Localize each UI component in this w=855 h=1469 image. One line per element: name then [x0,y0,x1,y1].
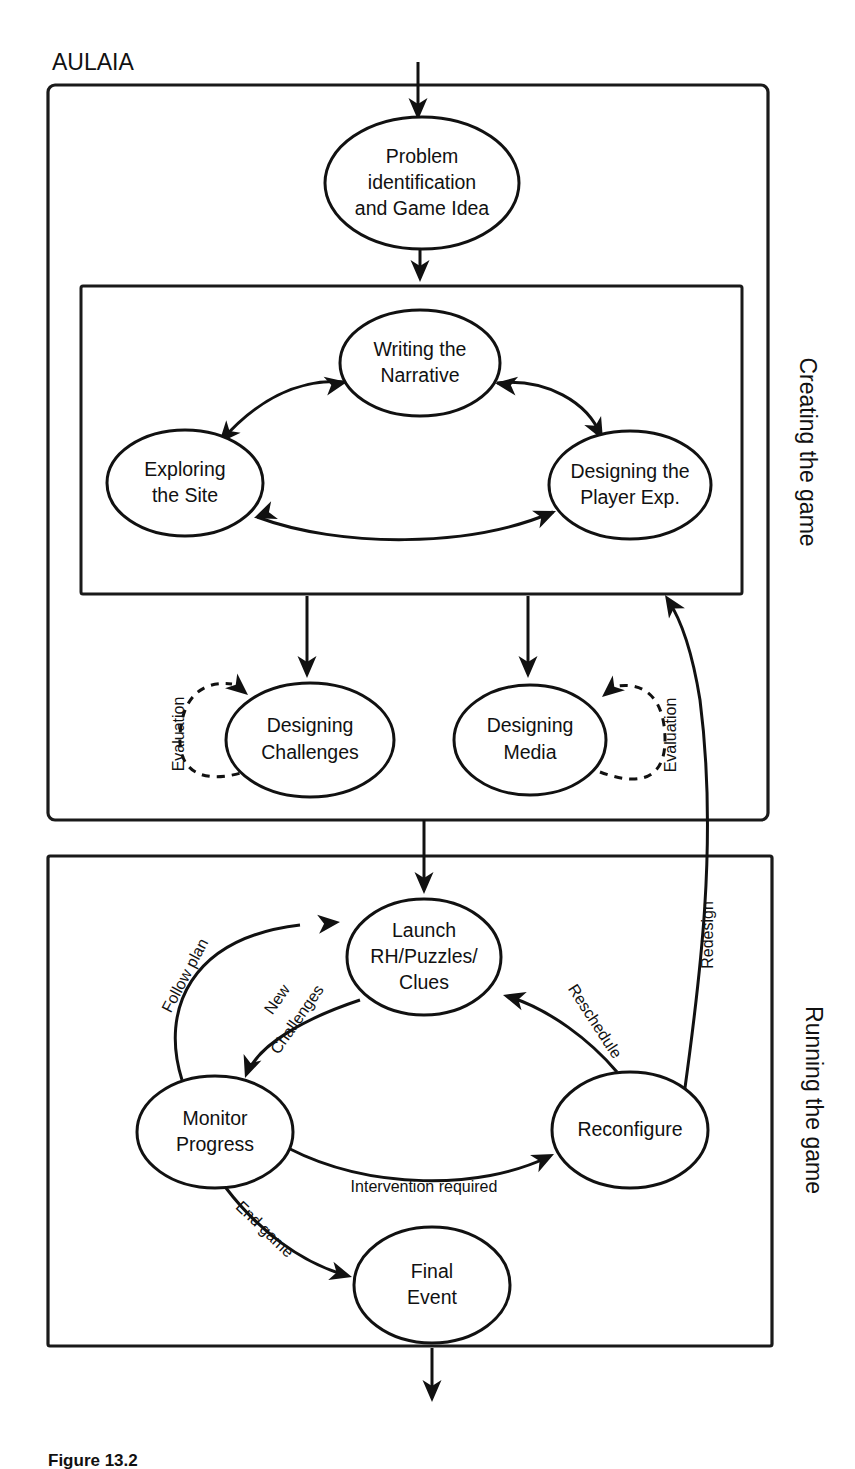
edge-to-designing-challenges [298,596,317,678]
node-exploring-the-site[interactable]: Exploring the Site [107,430,263,536]
edge-narrative-player-exp [494,374,612,445]
aulaia-flowchart: AULAIA Creating the game Running the gam… [0,0,855,1469]
node-designing-challenges[interactable]: Designing Challenges [226,683,394,797]
edge-label-redesign: Redesign [699,901,716,969]
node-problem-identification-line1: Problem [386,145,459,167]
node-final-event-line1: Final [411,1260,453,1282]
node-final-event-shape[interactable] [354,1227,510,1343]
node-designing-media-line1: Designing [487,714,574,736]
edge-entry [409,62,428,120]
node-designing-player-exp-line2: Player Exp. [580,486,680,508]
node-monitor-progress-shape[interactable] [137,1076,293,1188]
node-monitor-progress[interactable]: Monitor Progress [137,1076,293,1188]
section-label-creating: Creating the game [795,357,821,546]
figure-caption: Figure 13.2 [48,1451,138,1469]
edge-exit [423,1348,442,1402]
node-final-event-line2: Event [407,1286,457,1308]
node-reconfigure[interactable]: Reconfigure [552,1072,708,1188]
node-exploring-the-site-line2: the Site [152,484,218,506]
edge-label-evaluation-right: Evaluation [662,698,679,773]
edge-end-game: End game [226,1188,355,1286]
node-designing-media-line2: Media [503,741,556,763]
node-reconfigure-label: Reconfigure [577,1118,682,1140]
edge-to-designing-media [519,596,538,678]
node-final-event[interactable]: Final Event [354,1227,510,1343]
edge-player-exp-exploring [251,501,560,539]
edge-label-follow-plan: Follow plan [158,936,211,1015]
node-problem-identification-line3: and Game Idea [355,197,490,219]
node-monitor-progress-line1: Monitor [182,1107,248,1129]
section-label-running: Running the game [801,1006,827,1194]
node-launch-rh-puzzles-clues[interactable]: Launch RH/Puzzles/ Clues [347,899,501,1015]
edge-label-end-game: End game [233,1198,297,1261]
node-designing-player-exp[interactable]: Designing the Player Exp. [549,431,711,539]
edge-narrative-exploring [212,373,349,450]
node-writing-the-narrative[interactable]: Writing the Narrative [340,310,500,416]
node-designing-player-exp-shape[interactable] [549,431,711,539]
node-problem-identification[interactable]: Problem identification and Game Idea [325,117,519,249]
figure-title: AULAIA [52,49,134,75]
node-monitor-progress-line2: Progress [176,1133,254,1155]
node-designing-challenges-line1: Designing [267,714,354,736]
edge-label-new-challenges-1: New [261,981,294,1017]
edge-label-evaluation-left: Evaluation [170,697,187,772]
edge-problem-to-narrative [411,249,430,282]
node-launch-line1: Launch [392,919,456,941]
node-writing-the-narrative-shape[interactable] [340,310,500,416]
edge-reschedule: Reschedule [500,981,625,1072]
node-writing-the-narrative-line2: Narrative [380,364,459,386]
node-designing-media[interactable]: Designing Media [454,685,606,795]
node-writing-the-narrative-line1: Writing the [374,338,467,360]
node-designing-player-exp-line1: Designing the [570,460,689,482]
node-designing-media-shape[interactable] [454,685,606,795]
node-exploring-the-site-line1: Exploring [144,458,225,480]
section-label-running-text: Running the game [801,1006,827,1194]
node-problem-identification-line2: identification [368,171,476,193]
edge-intervention: Intervention required [288,1145,558,1195]
figure-container: AULAIA Creating the game Running the gam… [0,0,855,1469]
node-launch-line2: RH/Puzzles/ [370,945,478,967]
node-designing-challenges-line2: Challenges [261,741,359,763]
node-exploring-the-site-shape[interactable] [107,430,263,536]
node-designing-challenges-shape[interactable] [226,683,394,797]
edge-new-challenges: New Challenges [236,981,360,1081]
node-launch-line3: Clues [399,971,449,993]
section-label-creating-text: Creating the game [795,357,821,546]
edge-evaluation-media: Evaluation [596,676,679,779]
edge-redesign: Redesign [657,590,716,1095]
edge-label-intervention: Intervention required [351,1178,498,1195]
